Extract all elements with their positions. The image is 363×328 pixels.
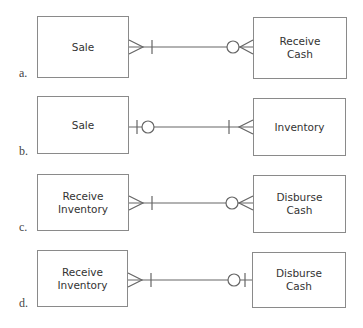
diagram-d: Receive Inventory Disburse Cash d. — [0, 0, 363, 328]
circle-icon — [228, 274, 240, 286]
relationship-connector — [0, 0, 363, 328]
